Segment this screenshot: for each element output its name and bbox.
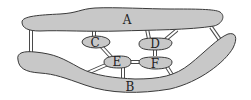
bridge-a-b-right	[211, 27, 220, 40]
bridge-a-d-diagonal	[165, 30, 177, 40]
bridge-f-b	[167, 67, 172, 75]
label-c: C	[90, 36, 99, 50]
diagram-canvas: A B C D E F	[0, 0, 251, 100]
label-e: E	[113, 55, 122, 69]
island-bridge-diagram: A B C D E F	[0, 0, 251, 100]
label-f: F	[151, 57, 159, 71]
label-b: B	[126, 80, 135, 94]
label-d: D	[150, 37, 160, 51]
label-a: A	[122, 13, 132, 27]
